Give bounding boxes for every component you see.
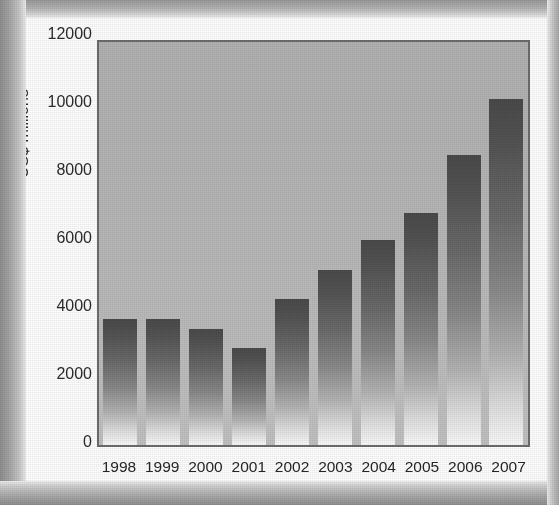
y-axis-tick-2000: 2000 — [32, 366, 92, 382]
x-axis-tick-1998: 1998 — [102, 458, 136, 476]
x-axis-tick-2005: 2005 — [405, 458, 439, 476]
scan-edge-right — [547, 0, 559, 505]
x-axis-tick-2001: 2001 — [232, 458, 266, 476]
y-axis-tick-4000: 4000 — [32, 298, 92, 314]
plot-area — [97, 40, 530, 447]
bar-chart: US$ millions 12000 10000 8000 6000 4000 … — [0, 0, 559, 505]
bar-2007 — [489, 99, 523, 445]
x-axis-tick-2006: 2006 — [448, 458, 482, 476]
x-axis-tick-2000: 2000 — [188, 458, 222, 476]
x-axis-tick-2002: 2002 — [275, 458, 309, 476]
bar-1998 — [103, 319, 137, 445]
bar-2004 — [361, 240, 395, 445]
y-axis-tick-10000: 10000 — [32, 94, 92, 110]
bar-2002 — [275, 299, 309, 445]
y-axis-tick-8000: 8000 — [32, 162, 92, 178]
x-axis-tick-2007: 2007 — [491, 458, 525, 476]
bar-2006 — [447, 155, 481, 445]
scan-edge-top — [0, 0, 559, 18]
x-axis-tick-2004: 2004 — [361, 458, 395, 476]
x-axis-tick-1999: 1999 — [145, 458, 179, 476]
y-axis-tick-labels: 12000 10000 8000 6000 4000 2000 0 — [28, 0, 92, 505]
bar-2003 — [318, 270, 352, 445]
scan-edge-bottom — [0, 481, 559, 505]
bar-2000 — [189, 329, 223, 445]
bar-1999 — [146, 319, 180, 445]
scan-edge-left — [0, 0, 26, 505]
y-axis-tick-6000: 6000 — [32, 230, 92, 246]
y-axis-tick-0: 0 — [32, 434, 92, 450]
bar-2001 — [232, 348, 266, 445]
bar-series — [99, 42, 528, 445]
y-axis-tick-12000: 12000 — [32, 26, 92, 42]
x-axis-tick-labels: 1998199920002001200220032004200520062007 — [97, 458, 530, 482]
bar-2005 — [404, 213, 438, 445]
scanned-page: Figure 7. World trade in ... US$ million… — [0, 0, 559, 505]
x-axis-tick-2003: 2003 — [318, 458, 352, 476]
